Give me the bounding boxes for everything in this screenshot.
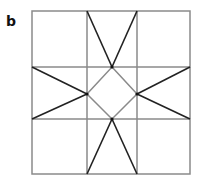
star-diagram — [0, 0, 201, 184]
vertex-dot-0 — [110, 65, 113, 68]
vertex-dots — [85, 65, 138, 120]
star-line-4 — [32, 67, 87, 94]
center-diamond — [87, 67, 137, 119]
vertex-dot-3 — [85, 92, 88, 95]
star-line-7 — [137, 94, 190, 119]
grid-lines — [32, 11, 190, 174]
vertex-dot-1 — [135, 92, 138, 95]
star-lines — [32, 11, 190, 174]
star-line-6 — [137, 67, 190, 94]
star-line-2 — [87, 119, 112, 174]
star-line-5 — [32, 94, 87, 119]
vertex-dot-2 — [110, 117, 113, 120]
star-line-0 — [87, 11, 112, 67]
star-line-3 — [112, 119, 137, 174]
star-line-1 — [112, 11, 137, 67]
outer-square — [32, 11, 190, 174]
